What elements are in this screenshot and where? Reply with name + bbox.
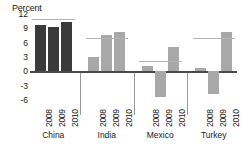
y-tick-label: 6 <box>2 39 28 47</box>
reference-line-india <box>86 38 129 40</box>
bar-india-2008 <box>88 57 99 71</box>
bar-india-2009 <box>101 35 112 71</box>
y-tick-label: -6 <box>2 96 28 104</box>
year-label-india-2009: 2009 <box>111 109 121 127</box>
bar-mexico-2010 <box>168 47 179 71</box>
year-label-mexico-2008: 2008 <box>151 109 161 127</box>
group-separator <box>80 73 81 115</box>
bar-group-turkey <box>191 14 238 100</box>
group-separator <box>187 73 188 115</box>
bar-china-2009 <box>48 27 59 71</box>
y-tick-label: 0 <box>2 67 28 75</box>
y-axis-tick-labels: 129630-3-6 <box>0 14 28 100</box>
bar-turkey-2009 <box>208 71 219 93</box>
bar-chart: Percent 129630-3-6 200820092010200820092… <box>0 0 241 147</box>
year-label-turkey-2009: 2009 <box>218 109 228 127</box>
year-label-india-2008: 2008 <box>98 109 108 127</box>
x-axis-country-labels: ChinaIndiaMexicoTurkey <box>30 130 237 144</box>
group-separator <box>134 73 135 115</box>
year-label-mexico-2010: 2010 <box>177 109 187 127</box>
reference-line-china <box>32 19 75 21</box>
bar-group-china <box>30 14 77 100</box>
year-label-china-2009: 2009 <box>57 109 67 127</box>
bar-mexico-2008 <box>142 66 153 72</box>
year-label-turkey-2008: 2008 <box>205 109 215 127</box>
year-label-china-2008: 2008 <box>44 109 54 127</box>
y-tick-label: 12 <box>2 10 28 18</box>
country-label-china: China <box>30 130 77 140</box>
year-label-india-2010: 2010 <box>124 109 134 127</box>
reference-line-turkey <box>193 38 236 40</box>
bar-china-2008 <box>35 25 46 71</box>
reference-line-mexico <box>139 61 182 63</box>
y-tick-label: 9 <box>2 24 28 32</box>
bar-turkey-2008 <box>195 68 206 71</box>
country-label-india: India <box>84 130 131 140</box>
year-label-turkey-2010: 2010 <box>231 109 241 127</box>
country-label-turkey: Turkey <box>191 130 238 140</box>
y-tick-label: 3 <box>2 53 28 61</box>
country-label-mexico: Mexico <box>137 130 184 140</box>
year-label-china-2010: 2010 <box>70 109 80 127</box>
year-label-mexico-2009: 2009 <box>164 109 174 127</box>
bar-china-2010 <box>61 22 72 72</box>
bar-group-mexico <box>137 14 184 100</box>
bar-group-india <box>84 14 131 100</box>
y-tick-label: -3 <box>2 82 28 90</box>
bar-mexico-2009 <box>155 71 166 96</box>
